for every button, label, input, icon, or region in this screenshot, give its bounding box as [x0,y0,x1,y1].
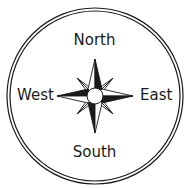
compass-diagram: North South West East [0,0,189,188]
label-north: North [0,33,189,48]
label-south: South [0,145,189,160]
label-west: West [17,88,54,103]
label-east: East [140,88,172,103]
rose [57,59,133,133]
center-hub [87,88,103,104]
